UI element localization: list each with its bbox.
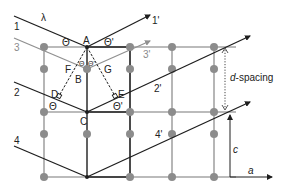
point-label-g: G [104, 64, 112, 75]
point-label-a: A [83, 35, 90, 46]
wavelength-label: λ [41, 12, 46, 23]
lattice-atom [126, 108, 134, 116]
d-spacing-label: d-spacing [230, 72, 273, 83]
lattice-atom [40, 173, 48, 181]
lattice-atom [168, 108, 176, 116]
lattice-atom [126, 130, 134, 138]
angle-theta-bottom-left: Θ [49, 101, 57, 112]
lattice-atom [126, 65, 134, 73]
axis-label-c: c [233, 144, 238, 155]
ray-label-2-prime: 2' [154, 83, 162, 94]
angle-theta-prime-top-right: Θ' [104, 37, 114, 48]
d-spacing-indicator [222, 48, 228, 110]
lattice-atom [210, 173, 218, 181]
point-bottom-dot [85, 175, 89, 179]
point-c-dot [85, 110, 89, 114]
point-label-d: D [51, 89, 58, 100]
point-label-c: C [80, 116, 87, 127]
ray-label-3: 3 [14, 42, 20, 53]
angle-theta-top-left: Θ [62, 37, 70, 48]
ray-label-1: 1 [14, 21, 20, 32]
axis-label-a: a [248, 165, 254, 176]
ray-label-1-prime: 1' [152, 15, 160, 26]
angle-theta-prime-bottom-right: Θ' [113, 101, 123, 112]
ray-label-3-prime: 3' [143, 49, 151, 60]
lattice-atom [83, 130, 91, 138]
ray-label-4-prime: 4' [155, 129, 163, 140]
lattice-atom [40, 130, 48, 138]
bragg-diagram: 1 3 2 4 1' 3' 2' 4' λ A B C D E F G Θ Θ'… [0, 0, 287, 192]
lattice-atom [210, 65, 218, 73]
lattice-atom [40, 108, 48, 116]
lattice-atom [210, 43, 218, 51]
lattice-atom [40, 65, 48, 73]
lattice-atom [210, 108, 218, 116]
ray-label-4: 4 [14, 135, 20, 146]
lattice-grid [44, 47, 236, 177]
angle-theta-inner-left: Θ [79, 60, 85, 67]
point-label-f: F [65, 64, 71, 75]
angle-theta-inner-right: Θ' [88, 60, 95, 67]
lattice-atom [168, 43, 176, 51]
ray-label-2: 2 [14, 87, 20, 98]
d-spacing-label-rest: -spacing [236, 72, 274, 83]
lattice-atom [168, 173, 176, 181]
point-label-e: E [118, 89, 125, 100]
point-label-b: B [75, 74, 82, 85]
lattice-atom [210, 130, 218, 138]
ray-1 [14, 15, 150, 47]
lattice-atom [126, 173, 134, 181]
